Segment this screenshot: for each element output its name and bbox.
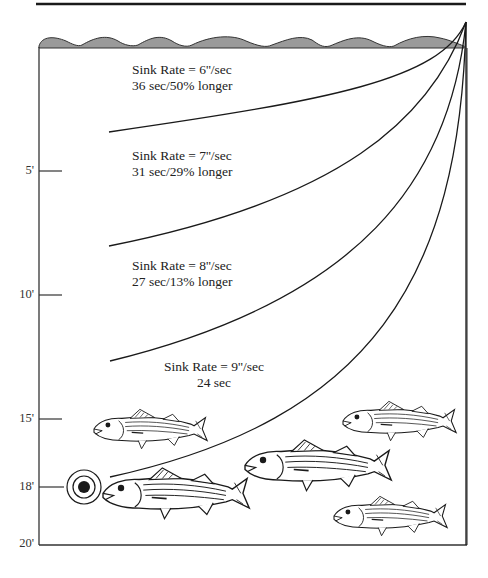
fish-icon-5 <box>334 496 447 535</box>
depth-label-20ft: 20' <box>4 536 34 551</box>
sink-rate-6-label: Sink Rate = 6''/sec <box>132 62 232 78</box>
depth-ticks <box>39 171 64 487</box>
fish-icon-1 <box>94 409 207 448</box>
fish-icon-4 <box>245 440 391 491</box>
fish-icon-3 <box>343 401 456 440</box>
sink-rate-7-label: Sink Rate = 7''/sec <box>132 148 232 164</box>
time-7-label: 31 sec/29% longer <box>132 164 232 180</box>
fish-icon-2 <box>103 468 249 519</box>
depth-label-15ft: 15' <box>4 411 34 426</box>
curve-label-8: Sink Rate = 8''/sec 27 sec/13% longer <box>132 258 232 290</box>
curve-label-7: Sink Rate = 7''/sec 31 sec/29% longer <box>132 148 232 180</box>
water-surface <box>39 36 464 48</box>
time-9-label: 24 sec <box>158 375 270 391</box>
depth-label-5ft: 5' <box>4 163 34 178</box>
diagram-canvas <box>0 0 488 578</box>
depth-label-10ft: 10' <box>4 287 34 302</box>
sink-rate-diagram: 5' 10' 15' 18' 20' Sink Rate = 6''/sec 3… <box>0 0 488 578</box>
bullseye-target-icon <box>67 470 101 504</box>
sink-rate-8-label: Sink Rate = 8''/sec <box>132 258 232 274</box>
curve-label-6: Sink Rate = 6''/sec 36 sec/50% longer <box>132 62 232 94</box>
time-8-label: 27 sec/13% longer <box>132 274 232 290</box>
curve-7in-per-sec <box>109 22 466 246</box>
curve-label-9: Sink Rate = 9''/sec 24 sec <box>158 359 270 391</box>
depth-label-18ft: 18' <box>4 479 34 494</box>
time-6-label: 36 sec/50% longer <box>132 78 232 94</box>
sink-rate-9-label: Sink Rate = 9''/sec <box>158 359 270 375</box>
